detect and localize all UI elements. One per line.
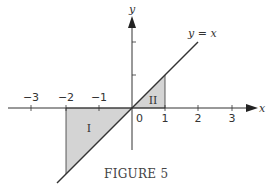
region-label-II: II: [149, 94, 158, 107]
region-label-I: I: [87, 122, 91, 135]
y-axis-arrow-icon: [128, 16, 136, 28]
tick-label-neg3: −3: [23, 91, 39, 104]
figure-caption: FIGURE 5: [104, 167, 168, 181]
tick-label-neg2: −2: [58, 91, 74, 104]
y-axis-label: y: [128, 3, 136, 16]
line-label: y = x: [187, 27, 217, 40]
tick-label-2: 2: [195, 112, 202, 125]
tick-label-neg1: −1: [91, 91, 107, 104]
tick-label-1: 1: [162, 112, 169, 125]
graph: −3 −2 −1 0 1 2 3 x y y = x I II FIGURE 5: [0, 0, 268, 186]
tick-label-0: 0: [136, 112, 143, 125]
x-axis-arrow-icon: [246, 104, 258, 112]
figure-5: −3 −2 −1 0 1 2 3 x y y = x I II FIGURE 5: [0, 0, 268, 186]
x-axis-label: x: [259, 102, 266, 115]
tick-label-3: 3: [229, 112, 236, 125]
y-ticks: [132, 42, 136, 75]
